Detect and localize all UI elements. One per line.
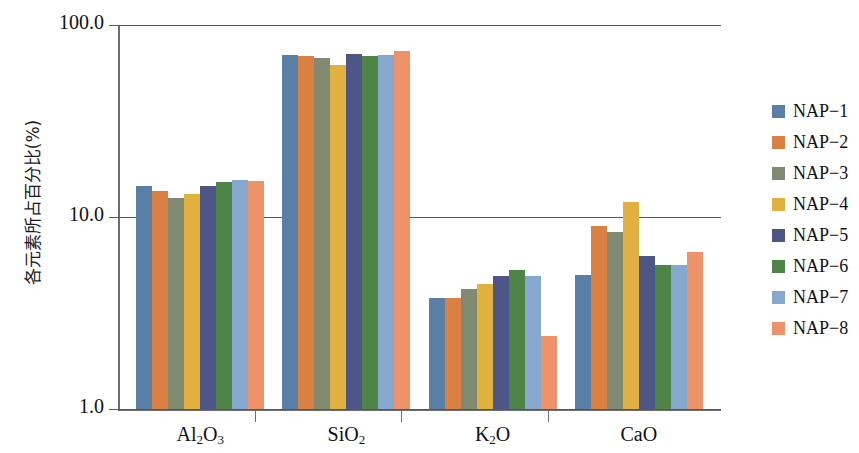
bar[interactable]: [394, 51, 410, 409]
legend-item[interactable]: NAP−6: [772, 251, 859, 282]
plot-area: 100.010.01.0 Al2O3SiO2K2OCaO: [118, 25, 721, 411]
y-tick-mark: [109, 25, 118, 26]
legend-item[interactable]: NAP−8: [772, 313, 859, 344]
legend-item[interactable]: NAP−2: [772, 127, 859, 158]
legend-swatch-icon: [772, 136, 785, 149]
x-tick-separator: [548, 411, 549, 422]
legend-label: NAP−1: [793, 101, 848, 122]
bar-chart-figure: 各元素所占百分比(%) 100.010.01.0 Al2O3SiO2K2OCaO…: [0, 0, 859, 453]
bar[interactable]: [493, 276, 509, 409]
legend-label: NAP−7: [793, 287, 848, 308]
y-tick-label: 100.0: [24, 11, 104, 34]
y-tick-label: 1.0: [24, 395, 104, 418]
legend-swatch-icon: [772, 322, 785, 335]
bar[interactable]: [575, 275, 591, 409]
bar[interactable]: [525, 276, 541, 409]
bar-group: [575, 25, 703, 409]
bar[interactable]: [216, 182, 232, 409]
bar[interactable]: [445, 298, 461, 409]
legend-label: NAP−8: [793, 318, 848, 339]
legend-swatch-icon: [772, 229, 785, 242]
bar[interactable]: [623, 202, 639, 409]
legend-swatch-icon: [772, 260, 785, 273]
y-tick-mark: [109, 217, 118, 218]
legend-swatch-icon: [772, 198, 785, 211]
bar[interactable]: [477, 284, 493, 409]
legend-item[interactable]: NAP−4: [772, 189, 859, 220]
x-category-label: SiO2: [271, 423, 421, 446]
bar[interactable]: [346, 54, 362, 409]
bar[interactable]: [429, 298, 445, 409]
y-axis-line: [118, 25, 120, 411]
x-category-label: Al2O3: [125, 423, 275, 446]
bar-group: [282, 25, 410, 409]
bar[interactable]: [607, 232, 623, 409]
bar[interactable]: [298, 56, 314, 409]
legend-label: NAP−3: [793, 163, 848, 184]
bar[interactable]: [362, 56, 378, 409]
gridline-1.0: [118, 409, 721, 410]
bar-group: [429, 25, 557, 409]
chart-legend: NAP−1NAP−2NAP−3NAP−4NAP−5NAP−6NAP−7NAP−8: [772, 96, 859, 344]
legend-swatch-icon: [772, 291, 785, 304]
x-category-label: CaO: [564, 423, 714, 446]
legend-label: NAP−4: [793, 194, 848, 215]
legend-label: NAP−5: [793, 225, 848, 246]
x-category-label: K2O: [418, 423, 568, 446]
bar[interactable]: [200, 186, 216, 409]
x-tick-separator: [255, 411, 256, 422]
legend-swatch-icon: [772, 167, 785, 180]
y-tick-mark: [109, 409, 118, 410]
bar[interactable]: [184, 194, 200, 409]
bar[interactable]: [168, 198, 184, 409]
y-tick-label: 10.0: [24, 203, 104, 226]
legend-item[interactable]: NAP−7: [772, 282, 859, 313]
bar[interactable]: [232, 180, 248, 409]
bar[interactable]: [248, 181, 264, 409]
bar[interactable]: [330, 65, 346, 409]
legend-item[interactable]: NAP−5: [772, 220, 859, 251]
bar[interactable]: [136, 186, 152, 409]
legend-item[interactable]: NAP−1: [772, 96, 859, 127]
bar-group: [136, 25, 264, 409]
bar[interactable]: [378, 55, 394, 409]
bar[interactable]: [461, 289, 477, 409]
legend-swatch-icon: [772, 105, 785, 118]
bar[interactable]: [152, 191, 168, 409]
legend-item[interactable]: NAP−3: [772, 158, 859, 189]
legend-label: NAP−6: [793, 256, 848, 277]
bar[interactable]: [671, 265, 687, 409]
bar[interactable]: [541, 336, 557, 409]
legend-label: NAP−2: [793, 132, 848, 153]
bar[interactable]: [282, 55, 298, 409]
bar[interactable]: [655, 265, 671, 409]
bar[interactable]: [314, 58, 330, 409]
x-tick-separator: [401, 411, 402, 422]
bar[interactable]: [687, 252, 703, 409]
bar[interactable]: [509, 270, 525, 409]
bar[interactable]: [639, 256, 655, 409]
bar[interactable]: [591, 226, 607, 409]
